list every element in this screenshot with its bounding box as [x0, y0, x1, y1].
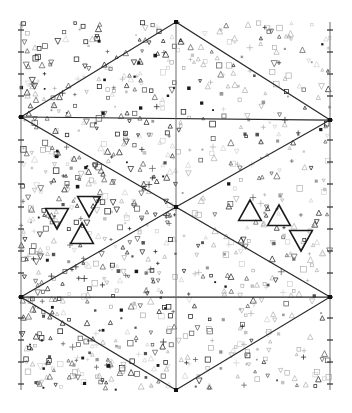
- scatter-dot-icon: [223, 253, 226, 256]
- scatter-dot-icon: [120, 308, 123, 311]
- scatter-dot-icon: [126, 161, 128, 163]
- scatter-dot-icon: [103, 79, 106, 82]
- scatter-dot-icon: [222, 318, 225, 321]
- scatter-dot-icon: [206, 266, 209, 269]
- scatter-dot-icon: [201, 241, 204, 244]
- hexagram-vertex-bottom: [174, 388, 178, 392]
- scatter-dot-icon: [201, 149, 203, 151]
- scatter-dot-icon: [276, 379, 278, 381]
- scatter-dot-icon: [103, 217, 106, 220]
- scatter-dot-icon: [86, 165, 88, 167]
- scatter-dot-icon: [120, 317, 122, 319]
- scatter-dot-icon: [83, 382, 86, 385]
- scatter-dot-icon: [251, 284, 254, 287]
- scatter-dot-icon: [224, 285, 226, 287]
- scatter-dot-icon: [101, 112, 104, 115]
- scatter-dot-icon: [31, 167, 33, 169]
- scatter-dot-icon: [287, 96, 289, 98]
- scatter-dot-icon: [134, 327, 136, 329]
- scatter-dot-icon: [131, 255, 133, 257]
- scatter-dot-icon: [219, 350, 222, 353]
- scatter-dot-icon: [162, 175, 164, 177]
- scatter-dot-icon: [94, 122, 96, 124]
- scatter-dot-icon: [167, 95, 169, 97]
- scatter-dot-icon: [315, 180, 318, 183]
- scatter-dot-icon: [164, 307, 166, 309]
- scatter-dot-icon: [143, 151, 147, 155]
- scatter-dot-icon: [94, 309, 96, 311]
- scatter-dot-icon: [48, 355, 51, 358]
- scatter-dot-icon: [115, 389, 117, 391]
- scatter-dot-icon: [125, 91, 128, 94]
- scatter-dot-icon: [321, 43, 323, 45]
- scatter-dot-icon: [115, 345, 118, 348]
- scatter-dot-icon: [42, 315, 45, 318]
- scatter-dot-icon: [146, 287, 148, 289]
- scatter-dot-icon: [244, 353, 247, 356]
- scatter-dot-icon: [44, 88, 46, 90]
- scatter-dot-icon: [30, 222, 32, 224]
- scatter-dot-icon: [73, 364, 76, 367]
- scatter-dot-icon: [303, 150, 305, 152]
- scatter-dot-icon: [253, 74, 256, 77]
- scatter-dot-icon: [46, 259, 49, 262]
- scatter-dot-icon: [195, 386, 197, 388]
- scatter-dot-icon: [187, 86, 190, 89]
- scatter-dot-icon: [241, 56, 243, 58]
- scatter-dot-icon: [67, 260, 70, 263]
- scatter-dot-icon: [124, 222, 126, 224]
- scatter-dot-icon: [244, 331, 247, 334]
- scatter-dot-icon: [38, 217, 40, 219]
- scatter-dot-icon: [157, 364, 160, 367]
- hexagram-vertex-left-lower: [19, 295, 23, 299]
- hexagram-vertex-right-lower: [328, 295, 332, 299]
- scatter-dot-icon: [153, 54, 157, 58]
- scatter-dot-icon: [281, 381, 284, 384]
- scatter-dot-icon: [95, 358, 98, 361]
- scatter-dot-icon: [42, 367, 44, 369]
- scatter-dot-icon: [87, 340, 89, 342]
- scatter-dot-icon: [255, 133, 259, 137]
- hexagram-vertex-center: [174, 205, 178, 209]
- scatter-dot-icon: [256, 359, 258, 361]
- scatter-dot-icon: [212, 109, 214, 111]
- hexagram-vertex-top: [174, 20, 178, 24]
- hexagram-vertex-left-upper: [19, 115, 23, 119]
- scatter-dot-icon: [43, 387, 45, 389]
- scatter-dot-icon: [284, 48, 286, 50]
- scatter-dot-icon: [133, 76, 135, 78]
- scatter-dot-icon: [282, 314, 285, 317]
- scatter-dot-icon: [117, 269, 121, 273]
- scatter-dot-icon: [114, 106, 116, 108]
- scatter-dot-icon: [29, 344, 31, 346]
- scatter-dot-icon: [220, 367, 223, 370]
- scatter-dot-icon: [319, 128, 322, 131]
- scatter-dot-icon: [118, 346, 121, 349]
- scatter-dot-icon: [81, 357, 84, 360]
- scatter-dot-icon: [312, 224, 315, 227]
- scatter-dot-icon: [173, 87, 175, 89]
- scatter-dot-icon: [102, 329, 105, 332]
- scatter-dot-icon: [61, 203, 64, 206]
- scatter-dot-icon: [74, 197, 76, 199]
- scatter-dot-icon: [139, 106, 142, 109]
- scatter-dot-icon: [135, 270, 138, 273]
- scatter-dot-icon: [70, 167, 73, 170]
- scatter-dot-icon: [144, 352, 147, 355]
- scatter-dot-icon: [320, 312, 322, 314]
- scatter-dot-icon: [191, 54, 194, 57]
- scatter-dot-icon: [54, 215, 56, 217]
- scatter-dot-icon: [107, 364, 111, 368]
- scatter-dot-icon: [311, 61, 313, 63]
- scatter-dot-icon: [141, 241, 144, 244]
- scatter-dot-icon: [87, 45, 89, 47]
- scatter-dot-icon: [76, 185, 80, 189]
- scatter-dot-icon: [135, 340, 137, 342]
- scatter-dot-icon: [277, 332, 280, 335]
- scatter-dot-icon: [237, 85, 240, 88]
- scatter-dot-icon: [227, 182, 230, 185]
- scatter-dot-icon: [323, 188, 326, 191]
- hexagonal-lattice-figure: [0, 0, 352, 413]
- scatter-dot-icon: [262, 101, 266, 105]
- scatter-dot-icon: [52, 253, 55, 256]
